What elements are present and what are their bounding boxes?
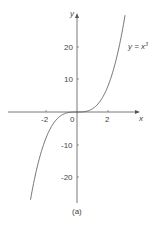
x-tick-label: -2	[41, 115, 49, 124]
figure-caption: (a)	[72, 207, 82, 216]
curve-x-cubed	[31, 15, 126, 200]
y-tick-label: 10	[64, 75, 73, 84]
y-axis-label: y	[69, 9, 75, 18]
curve-label: y = x3	[127, 41, 148, 51]
y-tick-label: -20	[61, 173, 73, 182]
y-tick-label: -10	[61, 141, 73, 150]
chart: -2 0 2 20 10 -10 -20 x y y = x3 (a)	[0, 0, 156, 229]
y-axis-arrow-icon	[75, 13, 79, 18]
x-tick-label: 2	[105, 115, 110, 124]
y-tick-label: 20	[64, 43, 73, 52]
x-axis-label: x	[138, 114, 144, 123]
x-tick-label: 0	[70, 115, 75, 124]
